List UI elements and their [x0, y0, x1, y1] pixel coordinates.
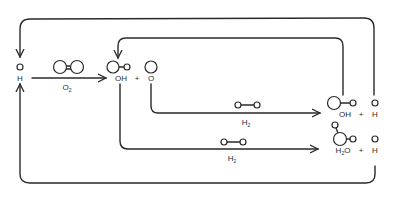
feedback-arrow-outer-top	[20, 18, 374, 95]
h-start-label: H	[17, 74, 23, 83]
h-atom-2: H	[372, 100, 378, 119]
o2-label: O2	[62, 83, 71, 93]
reaction-diagram: H O2 OH + O H2 H2 OH +	[0, 0, 393, 199]
h-atom-3: H	[372, 136, 378, 155]
h2o-molecule: H2O	[332, 122, 356, 156]
oh-1-label: OH	[115, 74, 127, 83]
reaction-arrow-oh-h2	[120, 84, 318, 149]
oh-radical-2: OH	[328, 97, 357, 120]
h-2-label: H	[372, 110, 378, 119]
feedback-arrow-bottom	[20, 84, 375, 183]
o-atom-1: O	[145, 61, 157, 83]
h-atom-start: H	[17, 64, 23, 83]
h2-molecule-a: H2	[235, 102, 260, 128]
plus-1: +	[135, 74, 140, 83]
reaction-arrow-o-h2	[151, 84, 320, 113]
h-3-label: H	[372, 146, 378, 155]
h2o-label: H2O	[336, 146, 351, 156]
o-1-label: O	[148, 74, 154, 83]
plus-2: +	[359, 110, 364, 119]
h2-b-label: H2	[228, 154, 237, 164]
oh-radical-1: OH	[107, 61, 130, 83]
h2-a-label: H2	[242, 118, 251, 128]
o2-molecule: O2	[54, 61, 84, 94]
oh-2-label: OH	[339, 110, 351, 119]
h2-molecule-b: H2	[221, 139, 246, 164]
plus-3: +	[359, 146, 364, 155]
